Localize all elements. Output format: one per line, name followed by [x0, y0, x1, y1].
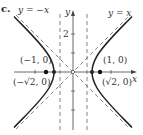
- vertex-left-label: (−1, 0): [20, 55, 52, 65]
- asymptote-pos-label: y = x: [107, 8, 131, 18]
- part-label: c.: [1, 3, 11, 14]
- vertex-right-point: [90, 70, 94, 74]
- y-axis: [71, 10, 75, 130]
- x-axis-label: x: [132, 74, 137, 84]
- hyperbola-figure: c. x y 2 y = −x y = x (−1, 0) (1, 0) (−√…: [0, 0, 143, 135]
- focus-left-point: [44, 70, 48, 74]
- focus-right-label: (√2, 0): [102, 77, 132, 87]
- vertex-left-point: [52, 70, 56, 74]
- y-axis-label: y: [64, 7, 71, 17]
- y-tick-label-2: 2: [63, 29, 69, 39]
- asymptote-neg-label: y = −x: [17, 5, 49, 15]
- x-axis: [14, 70, 137, 74]
- origin-point: [71, 70, 74, 73]
- focus-left-label: (−√2, 0): [13, 77, 50, 87]
- y-axis-arrow-icon: [71, 10, 75, 16]
- vertex-right-label: (1, 0): [103, 55, 127, 65]
- focus-right-point: [98, 70, 102, 74]
